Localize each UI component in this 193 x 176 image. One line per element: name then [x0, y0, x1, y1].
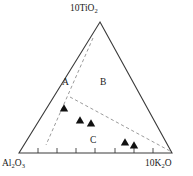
left-label-subscript: 2 [12, 162, 15, 169]
data-point-marker [76, 116, 84, 123]
region-label-a: A [62, 78, 69, 88]
data-point-marker [121, 138, 129, 145]
baseline-tick-group [38, 148, 153, 153]
right-axis-label: 10K2O [145, 159, 172, 169]
data-point-marker [130, 141, 138, 148]
right-label-text: 10K [145, 158, 161, 168]
ternary-diagram-figure: 10TiO2 Al2O3 10K2O A B C [0, 0, 193, 176]
left-axis-label: Al2O3 [2, 159, 25, 169]
right-label-text-2: O [165, 158, 172, 168]
region-label-b: B [100, 78, 106, 88]
apex-label-subscript: 2 [94, 7, 97, 14]
data-point-group [60, 104, 138, 148]
field-boundary-b-c [70, 97, 170, 151]
ternary-outline [19, 22, 172, 153]
left-label-subscript-2: 3 [22, 162, 25, 169]
data-point-marker [60, 104, 68, 111]
apex-axis-label: 10TiO2 [70, 4, 98, 14]
data-point-marker [87, 119, 95, 126]
right-label-subscript: 2 [161, 162, 164, 169]
region-label-c: C [90, 136, 96, 146]
ternary-plot-canvas [0, 0, 193, 176]
left-label-text-2: O [15, 158, 22, 168]
apex-label-text: 10TiO [70, 3, 94, 13]
field-boundary-a-b [46, 38, 93, 145]
left-label-text: Al [2, 158, 12, 168]
